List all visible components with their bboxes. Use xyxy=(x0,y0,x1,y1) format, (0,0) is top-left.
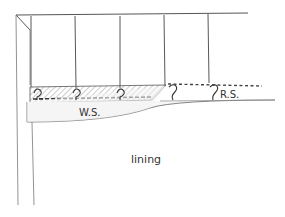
hook-icon xyxy=(169,85,177,100)
lining-label: lining xyxy=(131,153,161,166)
right-side-bottom-edge xyxy=(160,100,275,101)
wrong-side-label: W.S. xyxy=(79,107,100,118)
curtain-lining-sketch xyxy=(0,0,285,217)
hanging-strings xyxy=(31,14,209,88)
hook-icon xyxy=(210,85,218,100)
right-side-label: R.S. xyxy=(220,89,239,100)
top-rail xyxy=(16,13,248,30)
